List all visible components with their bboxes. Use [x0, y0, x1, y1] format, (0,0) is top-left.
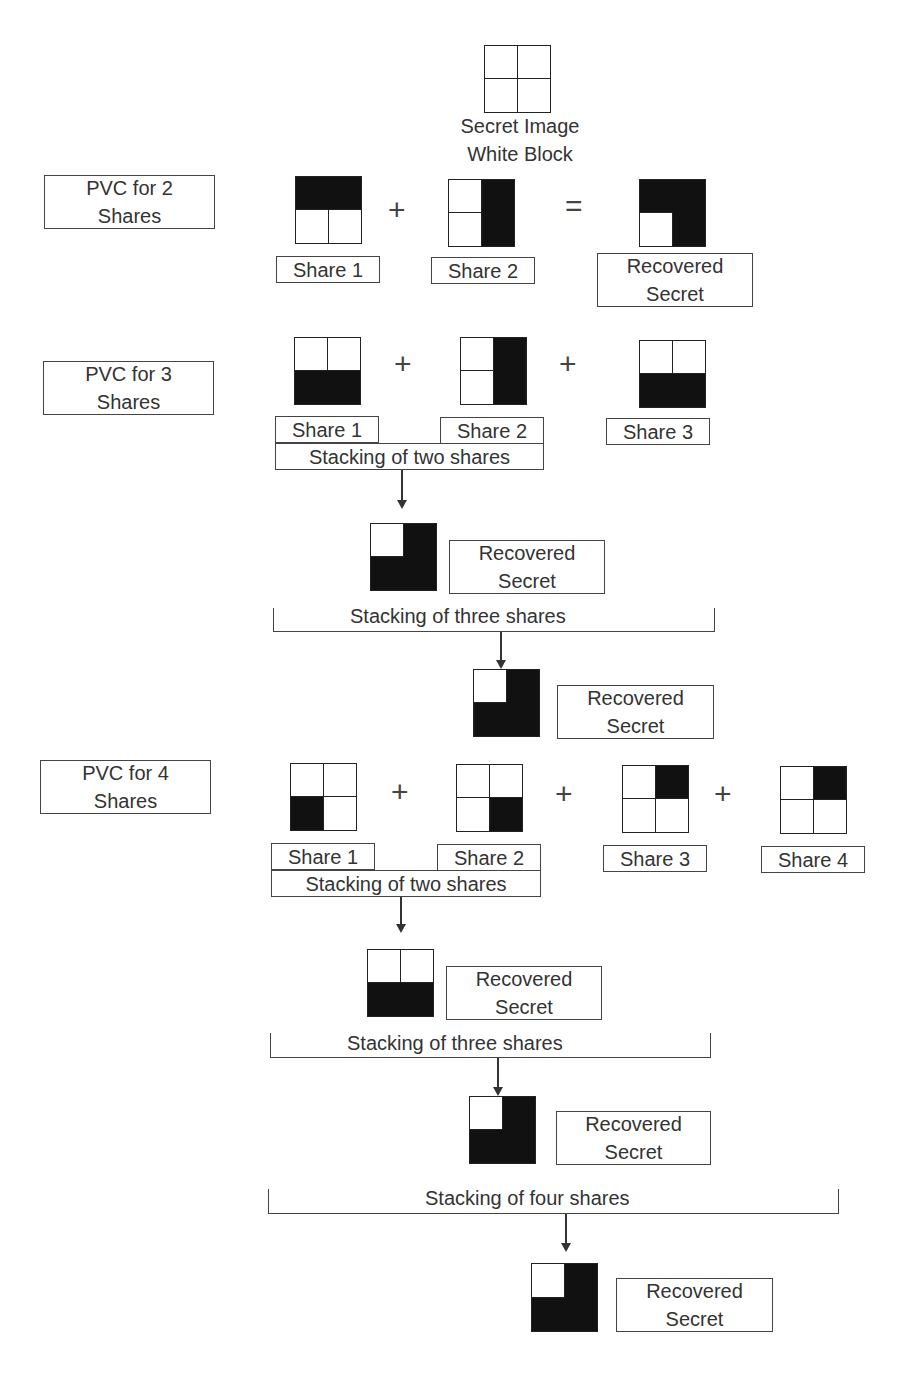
block-cell-top-left-white [368, 950, 401, 983]
block-cell-bottom-left-black [295, 371, 328, 404]
pvc2-title: PVC for 2 Shares [44, 175, 215, 229]
block-cell-bottom-right-black [401, 983, 434, 1016]
pvc4-share3-block [622, 765, 689, 833]
block-cell-top-right-white [328, 338, 361, 371]
block-cell-top-right-black [673, 180, 706, 213]
block-cell-bottom-right-black [507, 703, 540, 736]
pvc3-stack-two-block [370, 523, 437, 591]
pvc4-stack-four-block [531, 1263, 598, 1332]
pvc4-stack-four-label: Stacking of four shares [425, 1186, 630, 1210]
block-cell-top-right-black [329, 177, 362, 210]
arrow-line [497, 1058, 499, 1090]
block-cell-bottom-right-black [503, 1130, 536, 1163]
block-cell-top-left-white [291, 764, 324, 797]
arrow-line [400, 897, 402, 925]
pvc3-stack-three-label: Stacking of three shares [350, 604, 566, 628]
pvc3-title: PVC for 3 Shares [43, 361, 214, 415]
block-cell-bottom-right-white [814, 800, 847, 833]
block-cell-top-left-white [485, 46, 518, 79]
pvc3-stack-three-block [473, 669, 540, 737]
block-cell-bottom-right-black [482, 213, 515, 246]
block-cell-top-left-white [457, 765, 490, 798]
block-cell-top-right-black [507, 670, 540, 703]
block-cell-top-right-white [490, 765, 523, 798]
block-cell-bottom-left-white [485, 79, 518, 112]
block-cell-top-left-white [295, 338, 328, 371]
plus-operator: + [714, 779, 732, 809]
pvc4-stack-two-label: Stacking of two shares [271, 870, 541, 897]
pvc4-share1-block [290, 763, 357, 831]
block-cell-top-left-white [781, 767, 814, 800]
pvc3-share1-label: Share 1 [275, 416, 379, 443]
block-cell-bottom-left-white [449, 213, 482, 246]
block-cell-bottom-right-white [518, 79, 551, 112]
pvc4-stack-four-recovered-label: Recovered Secret [616, 1278, 773, 1332]
pvc2-recovered-block [639, 179, 706, 247]
block-cell-bottom-right-black [404, 557, 437, 590]
pvc2-share2-block [448, 179, 515, 247]
block-cell-bottom-left-black [368, 983, 401, 1016]
pvc4-title: PVC for 4 Shares [40, 760, 211, 814]
block-cell-top-left-white [532, 1264, 565, 1298]
pvc3-stack-three-recovered-label: Recovered Secret [557, 685, 714, 739]
pvc4-share4-label: Share 4 [761, 846, 865, 873]
block-cell-top-right-white [324, 764, 357, 797]
pvc4-stack-three-label: Stacking of three shares [347, 1031, 563, 1055]
pvc3-stack-two-recovered-label: Recovered Secret [449, 540, 605, 594]
block-cell-top-left-white [470, 1097, 503, 1130]
block-cell-top-right-black [814, 767, 847, 800]
pvc4-stack-two-block [367, 949, 434, 1017]
block-cell-bottom-right-black [673, 374, 706, 407]
block-cell-top-right-white [401, 950, 434, 983]
block-cell-top-left-white [461, 338, 494, 371]
block-cell-bottom-left-black [371, 557, 404, 590]
block-cell-bottom-left-white [457, 798, 490, 831]
pvc4-stack-three-recovered-label: Recovered Secret [556, 1111, 711, 1165]
block-cell-bottom-left-black [532, 1298, 565, 1332]
block-cell-bottom-left-black [470, 1130, 503, 1163]
block-cell-bottom-right-black [673, 213, 706, 246]
pvc3-stack-two-label: Stacking of two shares [275, 443, 544, 470]
pvc4-stack-two-recovered-label: Recovered Secret [446, 966, 602, 1020]
secret-image-caption: Secret Image White Block [430, 112, 610, 168]
arrow-line [565, 1214, 567, 1246]
plus-operator: + [388, 195, 406, 225]
arrow-down-icon [561, 1243, 571, 1252]
block-cell-top-right-black [482, 180, 515, 213]
block-cell-bottom-left-white [781, 800, 814, 833]
arrow-line [401, 470, 403, 502]
arrow-down-icon [397, 500, 407, 509]
block-cell-top-left-black [296, 177, 329, 210]
arrow-down-icon [396, 924, 406, 933]
pvc4-share4-block [780, 766, 847, 834]
secret-image-block [484, 45, 551, 113]
block-cell-top-left-white [474, 670, 507, 703]
block-cell-bottom-right-white [656, 799, 689, 832]
block-cell-bottom-right-white [329, 210, 362, 243]
pvc2-share1-block [295, 176, 362, 244]
block-cell-bottom-left-white [296, 210, 329, 243]
block-cell-top-right-black [656, 766, 689, 799]
block-cell-bottom-right-black [494, 371, 527, 404]
block-cell-bottom-right-black [328, 371, 361, 404]
block-cell-top-right-white [518, 46, 551, 79]
block-cell-top-right-black [503, 1097, 536, 1130]
equals-operator: = [565, 191, 583, 221]
block-cell-top-left-white [623, 766, 656, 799]
block-cell-bottom-left-black [640, 374, 673, 407]
block-cell-bottom-left-black [474, 703, 507, 736]
pvc4-share2-block [456, 764, 523, 832]
block-cell-top-right-black [565, 1264, 598, 1298]
block-cell-bottom-left-black [291, 797, 324, 830]
pvc4-share2-label: Share 2 [437, 844, 541, 871]
pvc3-share1-block [294, 337, 361, 405]
pvc4-share3-label: Share 3 [603, 845, 707, 872]
block-cell-top-left-white [640, 341, 673, 374]
pvc4-stack-three-block [469, 1096, 536, 1164]
pvc3-share2-label: Share 2 [440, 417, 544, 444]
pvc2-share2-label: Share 2 [431, 257, 535, 284]
pvc2-recovered-label: Recovered Secret [597, 253, 753, 307]
arrow-down-icon [493, 1087, 503, 1096]
block-cell-top-right-white [673, 341, 706, 374]
block-cell-top-left-white [449, 180, 482, 213]
